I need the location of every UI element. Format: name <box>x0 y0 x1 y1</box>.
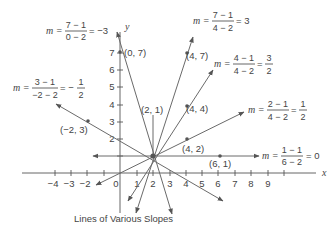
svg-text:m =: m = <box>262 150 278 161</box>
svg-text:−2 − 2: −2 − 2 <box>32 90 58 100</box>
svg-text:m =: m = <box>46 25 62 36</box>
point-marker <box>185 137 189 141</box>
svg-text:7 − 1: 7 − 1 <box>66 20 86 30</box>
slope-label-0: m = 1 − 1 6 − 2 = 0 <box>262 145 319 167</box>
svg-text:1 − 1: 1 − 1 <box>282 145 302 155</box>
svg-text:4 − 2: 4 − 2 <box>268 112 288 122</box>
slope-label-1-2: m = 2 − 1 4 − 2 = 1 2 <box>248 99 307 122</box>
svg-text:2: 2 <box>78 90 83 100</box>
figure-caption: Lines of Various Slopes <box>74 213 173 224</box>
svg-text:m =: m = <box>214 58 230 69</box>
x-tick-label: 9 <box>265 178 270 189</box>
point-marker <box>118 50 122 54</box>
point-label: (4, 2) <box>182 143 204 154</box>
point-label: (4, 7) <box>186 50 208 61</box>
svg-text:4 − 1: 4 − 1 <box>234 53 254 63</box>
center-point-marker <box>150 153 155 158</box>
svg-text:=: = <box>257 58 263 69</box>
y-tick-label: 3 <box>109 116 114 127</box>
svg-text:2 − 1: 2 − 1 <box>268 99 288 109</box>
svg-text:4 − 2: 4 − 2 <box>213 23 233 33</box>
x-axis-label: x <box>321 167 327 178</box>
y-tick-label: 4 <box>109 99 114 110</box>
x-tick-label: 2 <box>150 178 155 189</box>
x-tick-label: −3 <box>64 178 75 189</box>
svg-text:= 0: = 0 <box>306 150 319 161</box>
y-tick-label: 6 <box>109 64 114 75</box>
svg-text:m =: m = <box>193 15 209 26</box>
y-tick-label: 5 <box>109 81 114 92</box>
svg-text:0 − 2: 0 − 2 <box>66 32 86 42</box>
svg-text:m =: m = <box>248 104 264 115</box>
y-axis-label: y <box>124 21 130 32</box>
svg-text:=: = <box>291 104 297 115</box>
center-point-label: (2, 1) <box>141 104 163 115</box>
point-label: (−2, 3) <box>60 124 88 135</box>
svg-text:m =: m = <box>13 82 29 93</box>
svg-text:4 − 2: 4 − 2 <box>234 66 254 76</box>
slope-label-neg3: m = 7 − 1 0 − 2 = −3 <box>46 20 108 42</box>
x-tick-label: 3 <box>167 178 172 189</box>
svg-text:2: 2 <box>300 112 305 122</box>
slope-label-3-2: m = 4 − 1 4 − 2 = 3 2 <box>214 53 273 76</box>
x-tick-label: −4 <box>48 178 59 189</box>
point-labels: (2, 1) (0, 7) (4, 7) (4, 4) (4, 2) (6, 1… <box>60 47 231 169</box>
x-tick-label: 6 <box>215 178 220 189</box>
y-tick-label: 2 <box>109 133 114 144</box>
svg-text:3: 3 <box>266 53 271 63</box>
x-tick-label: −2 <box>80 178 91 189</box>
x-tick-label: 0 <box>113 178 118 189</box>
slopes-diagram: x y −4 −3 −2 0 1 2 3 4 5 6 7 8 9 <box>0 0 335 231</box>
y-tick-label: 7 <box>109 47 114 58</box>
x-tick-label: 7 <box>232 178 237 189</box>
svg-text:1: 1 <box>300 99 305 109</box>
svg-text:3 − 1: 3 − 1 <box>35 77 55 87</box>
y-ticks: 2 3 4 5 6 7 <box>109 47 123 156</box>
svg-text:7 − 1: 7 − 1 <box>213 10 233 20</box>
svg-text:6 − 2: 6 − 2 <box>282 157 302 167</box>
point-label: (6, 1) <box>209 158 231 169</box>
point-label: (0, 7) <box>124 47 146 58</box>
slope-label-3: m = 7 − 1 4 − 2 = 3 <box>193 10 249 33</box>
x-tick-label: 8 <box>248 178 253 189</box>
point-marker <box>86 119 90 123</box>
slope-label-neg1-2: m = 3 − 1 −2 − 2 = − 1 2 <box>13 77 85 100</box>
point-label: (4, 4) <box>186 103 208 114</box>
svg-text:1: 1 <box>78 77 83 87</box>
svg-text:= −3: = −3 <box>89 25 108 36</box>
svg-text:= −: = − <box>60 82 74 93</box>
svg-text:2: 2 <box>266 66 271 76</box>
svg-text:= 3: = 3 <box>236 15 249 26</box>
